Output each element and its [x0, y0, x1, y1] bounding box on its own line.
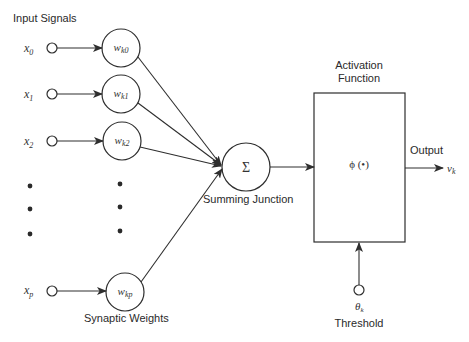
summing-junction-label: Summing Junction [203, 193, 294, 205]
output-label: Output [410, 144, 443, 156]
ellipsis-dot [28, 232, 33, 237]
connection-wk1-to-sum [138, 103, 221, 165]
ellipsis-dot [28, 207, 33, 212]
weight-wk0-label: wk0 [114, 41, 129, 55]
sigma-symbol: Σ [242, 160, 250, 175]
connection-wkp-to-sum [141, 169, 222, 282]
neuron-model-diagram: Input Signals x0 wk0 x1 wk1 x2 wk2 xp [0, 0, 469, 342]
input-x2-label: x2 [23, 134, 33, 150]
threshold-label: Threshold [335, 317, 384, 329]
weighted-connections [138, 57, 222, 282]
input-row-1: x1 wk1 [23, 75, 140, 113]
input-x0-label: x0 [23, 41, 33, 57]
input-row-p: xp wkp [23, 273, 144, 311]
weight-wk1-label: wk1 [114, 87, 129, 101]
weight-wkp-label: wkp [118, 285, 133, 299]
activation-label-line1: Activation [335, 59, 383, 71]
input-row-2: x2 wk2 [23, 122, 141, 160]
ellipsis-dots [28, 182, 123, 237]
input-x1-label: x1 [23, 87, 33, 103]
weight-wk2-label: wk2 [115, 134, 130, 148]
ellipsis-dot [118, 229, 123, 234]
output-vk-label: vk [447, 162, 456, 176]
activation-label-line2: Function [338, 72, 380, 84]
input-xp-label: xp [23, 283, 33, 299]
ellipsis-dot [118, 205, 123, 210]
activation-phi-symbol: ϕ (•) [349, 158, 369, 171]
threshold-theta-label: θk [355, 300, 364, 314]
ellipsis-dot [28, 184, 33, 189]
ellipsis-dot [118, 182, 123, 187]
input-node-xp [47, 286, 57, 296]
input-signals-label: Input Signals [13, 12, 77, 24]
input-node-x2 [47, 136, 57, 146]
threshold-node [354, 285, 364, 295]
input-node-x0 [47, 43, 57, 53]
connection-wk0-to-sum [138, 57, 221, 165]
synaptic-weights-label: Synaptic Weights [84, 312, 169, 324]
input-row-0: x0 wk0 [23, 29, 140, 67]
input-node-x1 [47, 89, 57, 99]
